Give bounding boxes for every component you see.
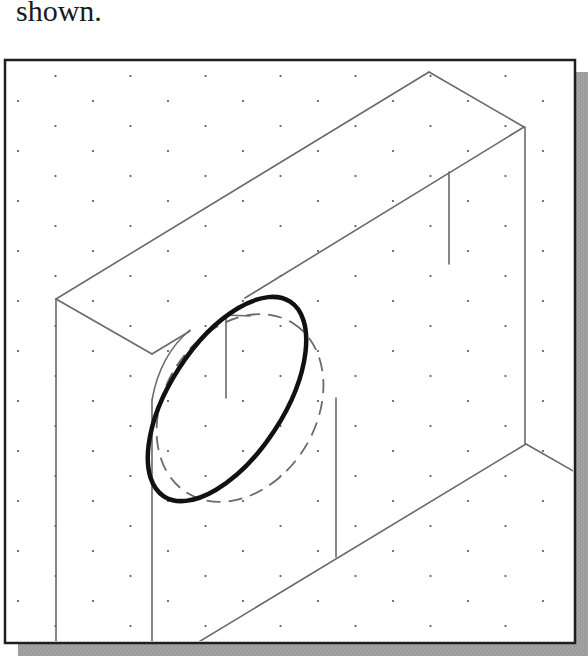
isometric-drawing [0,0,588,656]
